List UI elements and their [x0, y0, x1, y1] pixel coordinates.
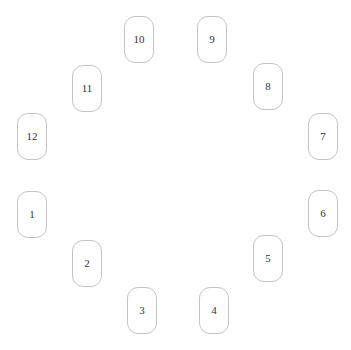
node-5[interactable]: 5: [253, 235, 283, 282]
node-label: 4: [211, 305, 217, 316]
node-7[interactable]: 7: [308, 113, 338, 160]
node-6[interactable]: 6: [308, 190, 338, 237]
node-label: 1: [29, 209, 35, 220]
node-label: 3: [139, 305, 145, 316]
node-9[interactable]: 9: [197, 16, 227, 63]
node-label: 8: [265, 81, 271, 92]
node-label: 11: [82, 83, 93, 94]
node-10[interactable]: 10: [124, 16, 154, 63]
node-1[interactable]: 1: [17, 191, 47, 238]
node-label: 2: [84, 258, 90, 269]
node-12[interactable]: 12: [17, 113, 47, 160]
node-8[interactable]: 8: [253, 63, 283, 110]
node-label: 12: [27, 131, 38, 142]
node-label: 6: [320, 208, 326, 219]
node-label: 10: [134, 34, 145, 45]
node-label: 5: [265, 253, 271, 264]
node-4[interactable]: 4: [199, 287, 229, 334]
node-3[interactable]: 3: [127, 287, 157, 334]
node-11[interactable]: 11: [72, 65, 102, 112]
node-label: 7: [320, 131, 326, 142]
node-label: 9: [209, 34, 215, 45]
diagram-canvas: 1 2 3 4 5 6 7 8 9 10 11 12: [0, 0, 351, 350]
node-2[interactable]: 2: [72, 240, 102, 287]
